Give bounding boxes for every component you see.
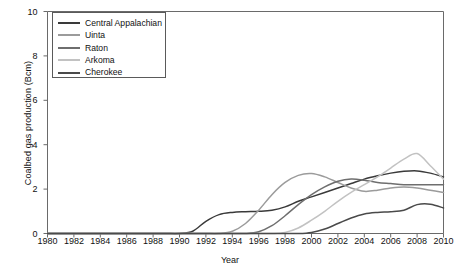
legend-item-raton: Raton — [58, 42, 108, 54]
series-line-cherokee — [48, 204, 444, 234]
y-tick-label: 10 — [16, 7, 38, 17]
legend-item-cherokee: Cherokee — [58, 67, 122, 79]
x-tick-label: 2010 — [424, 236, 460, 246]
legend-label: Arkoma — [85, 56, 115, 65]
legend: Central AppalachianUintaRatonArkomaChero… — [52, 12, 166, 78]
coalbed-gas-production-chart: Coalbed gas production (Bcm) Year 024681… — [0, 0, 460, 276]
legend-swatch-icon — [58, 34, 80, 36]
y-tick-label: 2 — [16, 184, 38, 194]
series-line-raton — [48, 179, 444, 234]
legend-item-central-appalachian: Central Appalachian — [58, 17, 162, 29]
legend-swatch-icon — [58, 59, 80, 61]
series-line-arkoma — [48, 153, 444, 233]
y-tick-label: 8 — [16, 51, 38, 61]
legend-swatch-icon — [58, 72, 80, 74]
legend-label: Raton — [85, 44, 108, 53]
y-tick-label: 4 — [16, 140, 38, 150]
legend-label: Uinta — [85, 31, 105, 40]
legend-label: Cherokee — [85, 68, 122, 77]
legend-item-uinta: Uinta — [58, 29, 105, 41]
legend-swatch-icon — [58, 47, 80, 49]
legend-swatch-icon — [58, 22, 80, 24]
legend-label: Central Appalachian — [85, 19, 162, 28]
legend-item-arkoma: Arkoma — [58, 54, 115, 66]
y-tick-label: 6 — [16, 95, 38, 105]
